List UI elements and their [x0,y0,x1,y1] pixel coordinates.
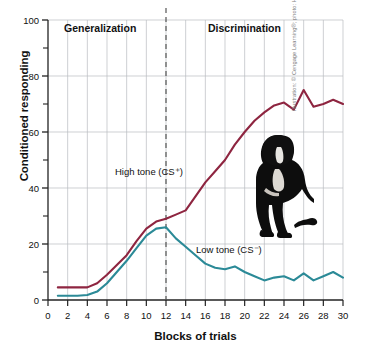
x-tick-label: 14 [180,310,191,321]
y-tick-label: 20 [28,239,39,250]
x-tick-label: 22 [259,310,270,321]
series-label-low-tone: Low tone (CS⁻) [196,244,262,255]
x-tick-label: 30 [338,310,349,321]
y-tick-label: 0 [34,295,39,306]
x-tick-label: 24 [279,310,290,321]
y-axis-label: Conditioned responding [18,26,30,206]
x-tick-label: 4 [85,310,90,321]
figure-container: 020406080100024681012141618202224262830 … [0,0,367,351]
x-tick-label: 26 [298,310,309,321]
x-tick-label: 8 [124,310,129,321]
series-label-high-tone: High tone (CS⁺) [115,166,183,177]
phase-label-discrimination: Discrimination [208,22,281,34]
y-tick-label: 100 [23,15,39,26]
x-tick-label: 12 [161,310,172,321]
x-tick-label: 16 [200,310,211,321]
y-tick-label: 40 [28,183,39,194]
y-tick-label: 60 [28,127,39,138]
dog-tail [294,218,317,228]
x-axis-label: Blocks of trials [48,330,343,342]
y-tick-label: 80 [28,71,39,82]
image-credit: Illustration: © Cengage Learning®; photo… [291,0,297,111]
phase-label-generalization: Generalization [64,22,136,34]
x-tick-label: 10 [141,310,152,321]
x-tick-label: 28 [318,310,329,321]
x-tick-label: 2 [65,310,70,321]
x-tick-label: 20 [239,310,250,321]
x-tick-label: 18 [220,310,231,321]
dog-paw-right [277,232,292,238]
dog-photo [248,133,318,241]
x-tick-label: 6 [104,310,109,321]
x-tick-label: 0 [45,310,50,321]
